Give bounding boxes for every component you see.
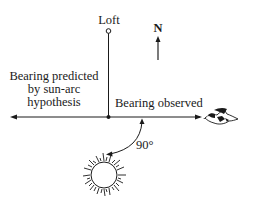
origin-dot xyxy=(107,115,111,119)
observed-bearing-label: Bearing observed xyxy=(115,97,203,110)
loft-marker xyxy=(106,29,111,117)
north-arrow-icon xyxy=(156,36,161,60)
observed-bearing-arrow-icon xyxy=(195,115,202,120)
arc-arrow-up-icon xyxy=(140,119,145,125)
loft-label: Loft xyxy=(96,14,122,27)
bearing-axis xyxy=(10,115,202,120)
predicted-bearing-label: Bearing predicted by sun-arc hypothesis xyxy=(2,70,106,109)
north-label: N xyxy=(152,22,164,35)
predicted-line-3: hypothesis xyxy=(2,96,106,109)
arc-arrow-left-icon xyxy=(106,152,113,157)
sun-icon xyxy=(83,153,126,196)
homing-pigeon-icon xyxy=(203,108,238,124)
angle-label: 90° xyxy=(136,139,154,152)
predicted-bearing-arrow-icon xyxy=(10,115,17,120)
